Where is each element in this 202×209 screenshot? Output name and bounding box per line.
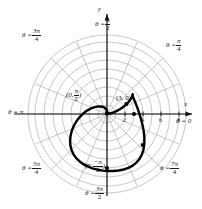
point-label-3-0: (3, 0) (116, 95, 131, 102)
marker-lower-right (141, 143, 145, 147)
x-tick-label-2: 2 (123, 117, 126, 123)
angle-label-theta-pi-4: θ =π4 (166, 38, 181, 53)
angle-label-theta-pi-2: θ =π2 (95, 17, 110, 32)
x-tick-label-6: 6 (159, 117, 162, 123)
marker-upper-right (124, 102, 128, 106)
polar-plot-figure: θ = 0 θ =π4 θ =π2 θ =3π4 θ = π θ =5π4 θ … (0, 0, 202, 209)
angle-label-theta-3pi-4: θ =3π4 (22, 28, 41, 43)
point-label-0-pi-over-2: (0,π2) (66, 88, 81, 103)
x-tick-label-8: 8 (177, 117, 180, 123)
angle-label-theta-pi: θ = π (8, 109, 23, 116)
angle-label-theta-3pi-2: θ =3π2 (85, 186, 104, 201)
angle-label-theta-5pi-4: θ =5π4 (22, 161, 41, 176)
x-axis-label: x (184, 101, 187, 108)
spoke-45 (107, 58, 163, 114)
y-axis-label: y (98, 6, 101, 13)
spoke-315 (107, 114, 163, 170)
x-axis-arrowhead (186, 112, 193, 117)
x-tick-label-4: 4 (141, 117, 144, 123)
marker-bottom (105, 166, 109, 170)
marker-right (132, 112, 136, 116)
marker-cusp (105, 111, 109, 115)
point-label-6-neg-pi-over-2: (6,−π2) (85, 159, 105, 174)
angle-label-theta-7pi-4: θ =7π4 (160, 161, 179, 176)
